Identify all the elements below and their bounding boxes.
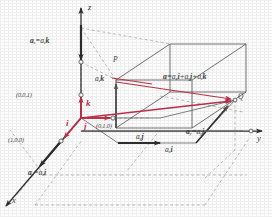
main-vector-a [81, 78, 231, 118]
y-component-label: ay=ayj [186, 128, 204, 137]
x-projection-label: axi [165, 146, 172, 155]
unit-vector-k-label: k [86, 99, 90, 108]
z-axis-label: z [88, 3, 91, 12]
z-projection-label: azk [95, 75, 104, 84]
x-comp-unit: i [44, 168, 46, 177]
y-proj-unit: j [142, 132, 144, 141]
coord-001-label: (0,0,1) [16, 92, 32, 98]
z-proj-unit: k [100, 74, 104, 83]
x-axis-component-arrow [40, 140, 62, 166]
vector-diagram-svg [0, 0, 272, 217]
unit-vector-i-label: i [66, 119, 68, 128]
z-component-label: az=azk [30, 37, 49, 46]
main-equation-label: a=axi+ayj+azk [163, 73, 206, 82]
x-component-label: ax=axi [28, 169, 46, 178]
z-comp-unit: k [45, 36, 49, 45]
x-proj-unit: i [171, 145, 173, 154]
coord-010-label: (0,1,0) [96, 123, 112, 129]
unit-vector-j-label: j [84, 122, 86, 131]
point-p-label: P [113, 56, 117, 64]
y-projection-label: ayj [136, 133, 143, 142]
x-projection-arrow [196, 106, 228, 143]
point-q-label: Q [238, 93, 243, 101]
eq-term3-unit: k [203, 72, 207, 81]
coord-100-label: (1,0,0) [8, 137, 24, 143]
x-axis-label: x [12, 196, 16, 205]
y-comp-unit: j [202, 127, 204, 136]
figure-canvas: z y x P Q az=azk azk a=axi+ayj+azk axi a… [0, 0, 272, 217]
rectangular-box [116, 44, 246, 128]
y-axis-label: y [257, 134, 261, 143]
